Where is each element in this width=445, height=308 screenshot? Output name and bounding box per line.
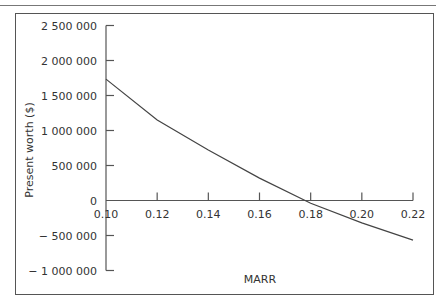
x-axis-title: MARR	[244, 273, 277, 286]
y-tick-label: 500 000	[52, 160, 98, 173]
present-worth-chart: 2 500 0002 000 0001 500 0001 000 000500 …	[0, 0, 445, 308]
y-axis-title: Present worth ($)	[23, 102, 36, 197]
y-tick-label: 2 500 000	[41, 20, 97, 33]
x-tick-label: 0.14	[196, 208, 221, 221]
y-axis: 2 500 0002 000 0001 500 0001 000 000500 …	[28, 20, 114, 278]
x-tick-label: 0.18	[298, 208, 323, 221]
y-tick-label: 2 000 000	[41, 55, 97, 68]
y-tick-label: 0	[90, 195, 97, 208]
x-tick-label: 0.22	[401, 208, 426, 221]
x-tick-label: 0.12	[145, 208, 170, 221]
x-tick-label: 0.16	[247, 208, 272, 221]
y-tick-label: − 500 000	[39, 230, 97, 243]
y-tick-label: 1 500 000	[41, 90, 97, 103]
y-tick-label: − 1 000 000	[28, 265, 97, 278]
x-tick-label: 0.20	[350, 208, 375, 221]
x-tick-label: 0.10	[94, 208, 119, 221]
y-tick-label: 1 000 000	[41, 125, 97, 138]
x-axis: 0.100.120.140.160.180.200.22	[94, 193, 426, 221]
